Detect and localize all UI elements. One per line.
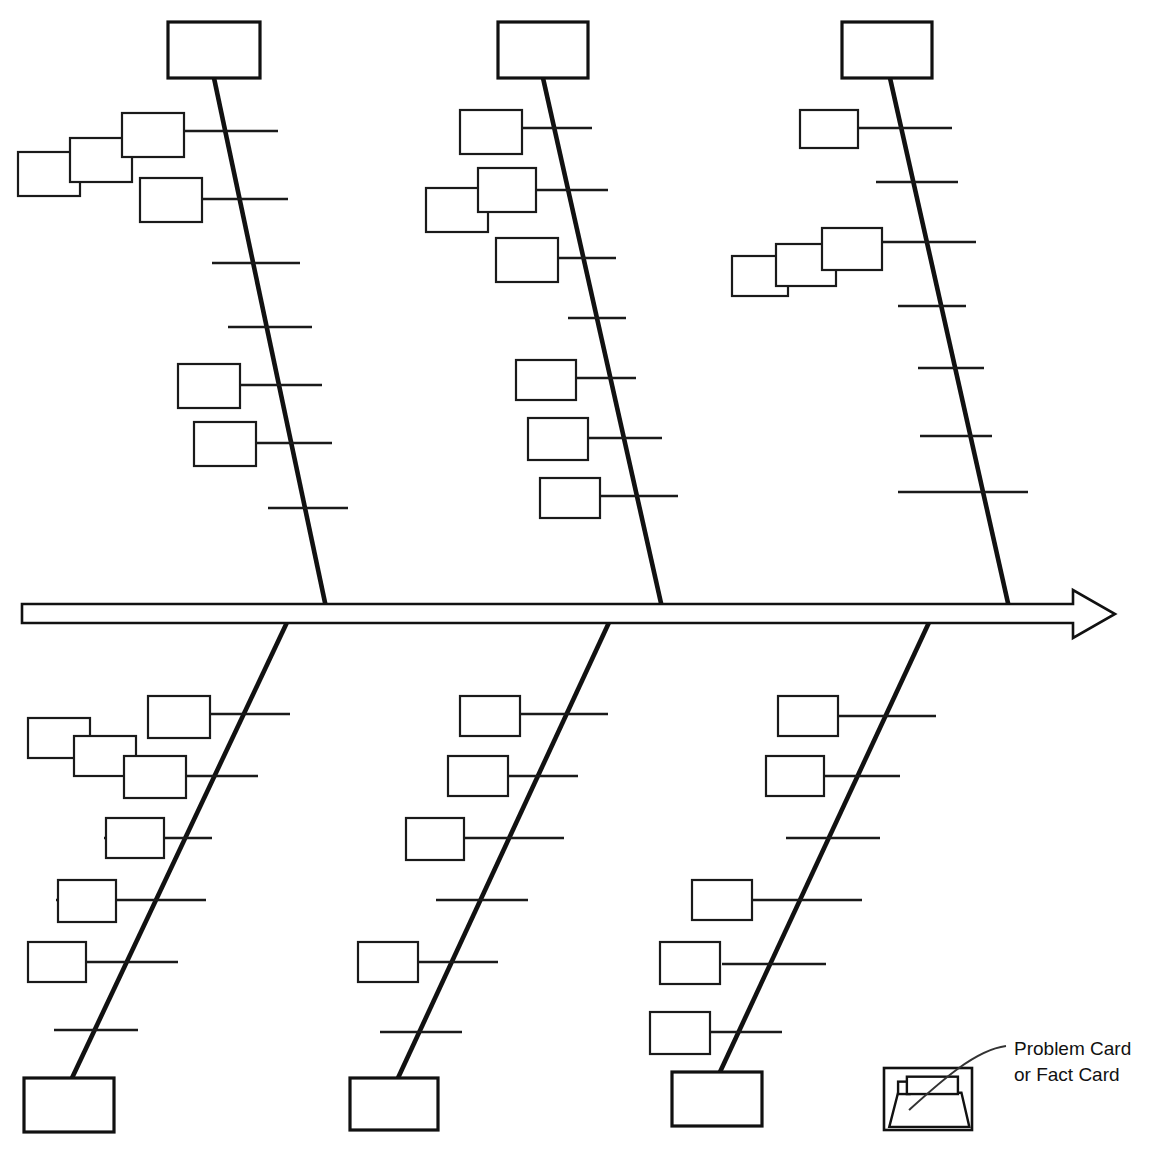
category-head-box-lower-right[interactable] [672, 1072, 762, 1126]
problem-card-lower-middle-4[interactable] [358, 942, 418, 982]
problem-card-upper-middle-4[interactable] [496, 238, 558, 282]
spine-layer [22, 590, 1115, 638]
legend-label-line-2: or Fact Card [1014, 1064, 1120, 1085]
fishbone-diagram-canvas: Problem Card or Fact Card [0, 0, 1149, 1162]
category-head-box-upper-middle[interactable] [498, 22, 588, 78]
legend-group: Problem Card or Fact Card [884, 1038, 1131, 1130]
branch-line-upper-left [214, 78, 327, 612]
branch-line-upper-right [890, 78, 1010, 612]
problem-card-lower-left-6[interactable] [58, 880, 116, 922]
problem-card-lower-right-4[interactable] [660, 942, 720, 984]
category-head-box-upper-left[interactable] [168, 22, 260, 78]
problem-card-lower-middle-3[interactable] [406, 818, 464, 860]
problem-card-upper-left-5[interactable] [178, 364, 240, 408]
branch-upper-middle [426, 22, 678, 612]
problem-card-upper-right-4[interactable] [822, 228, 882, 270]
branch-lower-right [650, 616, 936, 1126]
branch-line-upper-middle [543, 78, 663, 612]
problem-card-lower-left-4[interactable] [148, 696, 210, 738]
problem-card-lower-middle-2[interactable] [448, 756, 508, 796]
problem-card-upper-middle-3[interactable] [478, 168, 536, 212]
problem-card-upper-right-1[interactable] [800, 110, 858, 148]
problem-card-upper-left-4[interactable] [140, 178, 202, 222]
problem-card-upper-left-3[interactable] [122, 113, 184, 157]
problem-card-lower-middle-1[interactable] [460, 696, 520, 736]
problem-card-upper-middle-6[interactable] [528, 418, 588, 460]
problem-card-upper-left-6[interactable] [194, 422, 256, 466]
problem-card-upper-middle-7[interactable] [540, 478, 600, 518]
main-spine-arrow [22, 590, 1115, 638]
branch-line-lower-right [720, 616, 932, 1072]
legend-label-line-1: Problem Card [1014, 1038, 1131, 1059]
fishbone-diagram-svg: Problem Card or Fact Card [0, 0, 1149, 1162]
problem-card-lower-left-5[interactable] [106, 818, 164, 858]
branch-lower-middle [350, 616, 612, 1130]
category-head-box-lower-middle[interactable] [350, 1078, 438, 1130]
card-tray-icon [889, 1077, 969, 1127]
problem-card-upper-middle-5[interactable] [516, 360, 576, 400]
branch-upper-left [18, 22, 348, 612]
branches-layer [18, 22, 1028, 1132]
card-tray-large-card [907, 1077, 958, 1094]
problem-card-lower-right-2[interactable] [766, 756, 824, 796]
branch-lower-left [24, 616, 290, 1132]
problem-card-lower-right-3[interactable] [692, 880, 752, 920]
card-tray-body [889, 1093, 969, 1127]
branch-line-lower-left [72, 616, 290, 1078]
problem-card-lower-right-1[interactable] [778, 696, 838, 736]
branch-upper-right [732, 22, 1028, 612]
category-head-box-lower-left[interactable] [24, 1078, 114, 1132]
problem-card-lower-left-7[interactable] [28, 942, 86, 982]
problem-card-lower-right-5[interactable] [650, 1012, 710, 1054]
problem-card-upper-middle-1[interactable] [460, 110, 522, 154]
category-head-box-upper-right[interactable] [842, 22, 932, 78]
problem-card-lower-left-3[interactable] [124, 756, 186, 798]
